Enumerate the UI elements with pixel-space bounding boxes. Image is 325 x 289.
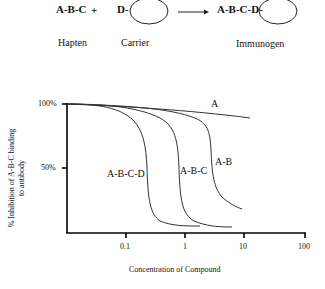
x-tick-10: 10 <box>239 242 247 251</box>
y-axis-title: % Inhibition of A-B-C binding to antibod… <box>7 103 27 253</box>
immunogen-protein-ellipse <box>259 0 297 24</box>
y-axis-title-line1: % Inhibition of A-B-C binding <box>7 103 17 253</box>
x-tick-0-1: 0.1 <box>120 242 130 251</box>
curve-label-A: A <box>211 98 218 109</box>
x-tick-1: 1 <box>183 242 187 251</box>
y-tick-50: 50% <box>41 163 56 172</box>
curve-label-A-B-C-D: A-B-C-D <box>107 168 145 179</box>
figure-graphics <box>0 0 325 289</box>
carrier-protein-ellipse <box>130 0 168 24</box>
curve-label-A-B-C: A-B-C <box>180 165 207 176</box>
x-axis-title: Concentration of Compound <box>129 265 221 274</box>
y-axis-title-line2: to antibody <box>17 103 27 253</box>
x-tick-100: 100 <box>298 242 310 251</box>
y-tick-100: 100% <box>38 99 57 108</box>
curve-label-A-B: A-B <box>215 156 232 167</box>
reaction-arrow-icon <box>178 10 209 15</box>
curve-A <box>67 104 250 118</box>
curve-A-B-C <box>67 104 232 227</box>
